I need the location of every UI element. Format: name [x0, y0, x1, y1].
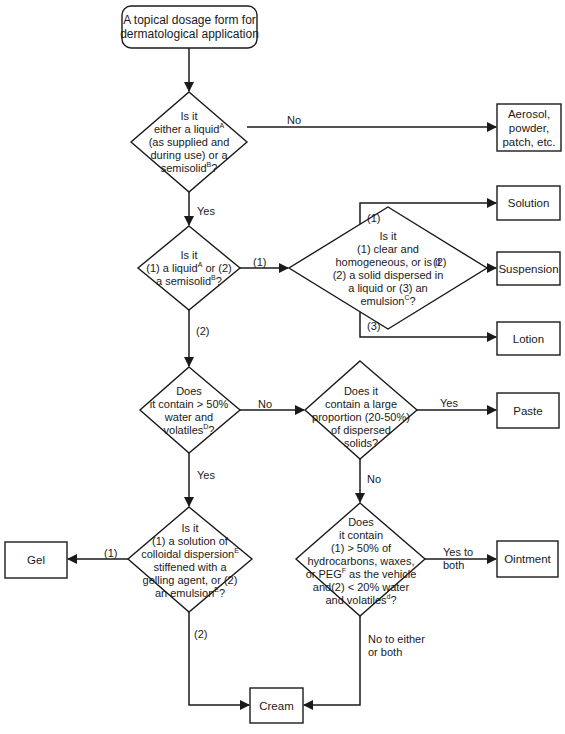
label-no-to-solids: No: [258, 398, 272, 411]
outcome-suspension: Suspension: [497, 252, 560, 285]
d3-line-5: a liquid or (3) an: [318, 282, 458, 295]
d4-line-2: it contain > 50%: [139, 398, 239, 411]
start-node: A topical dosage form for dermatological…: [122, 6, 257, 48]
outcome-paste: Paste: [497, 393, 559, 428]
d6-line-1: Is it: [129, 522, 251, 535]
d2-line-2-tail: or (2): [202, 262, 231, 274]
d1-footnote-a: A: [219, 122, 224, 129]
d2-line-3: a semisolidB?: [139, 275, 239, 288]
d7-line-5-text: or PEG: [306, 568, 342, 580]
decision-gel-or-emulsion: Is it (1) a solution of colloidal disper…: [129, 522, 251, 600]
outcome-gel: Gel: [5, 542, 67, 578]
d1-line-4: during use) or a: [139, 149, 239, 162]
d7-line-6: and(2) < 20% water: [297, 581, 425, 594]
outcome-aerosol: Aerosol, powder, patch, etc.: [497, 104, 561, 151]
d7-line-4: hydrocarbons, waxes,: [297, 555, 425, 568]
label-yes-to-both: Yes to both: [443, 546, 473, 572]
decision-dispersed-solids: Does it contain a large proportion (20-5…: [305, 385, 417, 450]
d7-line-3: (1) > 50% of: [297, 542, 425, 555]
edge-d6-2-to-cream: [189, 612, 249, 705]
d1-line-5-text: semisolid: [161, 162, 207, 174]
outcome-lotion: Lotion: [497, 322, 560, 355]
label-yes-down-water: Yes: [197, 469, 215, 482]
d4-line-4-text: volatiles: [164, 424, 204, 436]
d2-line-2-text: (1) a liquid: [146, 262, 197, 274]
d5-line-2: contain a large: [305, 398, 417, 411]
label-no-to-aerosol: No: [287, 114, 301, 127]
d2-qmark: ?: [216, 275, 222, 287]
d3-line-4: (2) a solid dispersed in: [318, 269, 458, 282]
d1-line-2: either a liquidA: [139, 123, 239, 136]
d5-line-1: Does it: [305, 385, 417, 398]
label-no-to-either-line-1: No to either: [368, 633, 425, 646]
label-yes-down-1: Yes: [197, 205, 215, 218]
label-no-down-solids: No: [367, 473, 381, 486]
d6-line-3-text: colloidal dispersion: [141, 548, 234, 560]
edge-d7-no-to-cream: [304, 616, 360, 705]
d1-line-2-text: either a liquid: [154, 123, 219, 135]
d6-line-5: gelling agent, or (2): [129, 574, 251, 587]
d7-line-5-tail: as the vehicle: [346, 568, 416, 580]
label-opt1-solution: (1): [367, 212, 380, 225]
d6-line-2: (1) a solution of: [129, 535, 251, 548]
d4-line-4: volatilesD?: [139, 424, 239, 437]
label-yes-to-paste: Yes: [440, 397, 458, 410]
d5-line-5: solids?: [305, 437, 417, 450]
d2-line-1: Is it: [139, 249, 239, 262]
label-no-to-either: No to either or both: [368, 633, 425, 659]
d7-line-2: it contain: [297, 529, 425, 542]
outcome-solution: Solution: [497, 186, 560, 220]
label-1-to-gel: (1): [104, 547, 117, 560]
d6-qmark: ?: [219, 587, 225, 599]
decision-ointment-check: Does it contain (1) > 50% of hydrocarbon…: [297, 516, 425, 607]
d4-line-3: water and: [139, 411, 239, 424]
label-opt3-lotion: (3): [367, 320, 380, 333]
d1-line-3: (as supplied and: [139, 136, 239, 149]
d2-line-2: (1) a liquidA or (2): [139, 262, 239, 275]
label-no-to-either-line-2: or both: [368, 646, 425, 659]
start-node-line-2: dermatological application: [120, 27, 259, 41]
d3-line-1: Is it: [318, 230, 458, 243]
d6-line-6: an emulsionE?: [129, 587, 251, 600]
d4-qmark: ?: [208, 424, 214, 436]
d6-line-6-text: an emulsion: [155, 587, 214, 599]
d5-line-3: proportion (20-50%): [305, 411, 417, 424]
d7-qmark: ?: [390, 594, 396, 606]
aerosol-line-1: Aerosol,: [502, 107, 555, 121]
d4-line-1: Does: [139, 385, 239, 398]
d6-line-3: colloidal dispersionE: [129, 548, 251, 561]
d3-line-6: emulsionC?: [318, 295, 458, 308]
d3-qmark: ?: [409, 295, 415, 307]
d7-line-5: or PEGF as the vehicle: [297, 568, 425, 581]
decision-liquid-type: Is it (1) clear and homogeneous, or is i…: [318, 230, 458, 308]
label-1-to-liquid-type: (1): [253, 256, 266, 269]
d3-line-6-text: emulsion: [360, 295, 404, 307]
d7-line-1: Does: [297, 516, 425, 529]
outcome-ointment: Ointment: [497, 541, 558, 577]
d6-footnote-e: E: [234, 547, 239, 554]
label-2-down: (2): [196, 325, 209, 338]
outcome-cream: Cream: [250, 688, 303, 723]
label-yes-to-both-line-1: Yes to: [443, 546, 473, 559]
d7-line-7: and volatilesd?: [297, 594, 425, 607]
start-node-line-1: A topical dosage form for: [120, 13, 259, 27]
label-opt2-suspension: (2): [433, 256, 446, 269]
d5-line-4: of dispersed: [305, 424, 417, 437]
decision-liquid-or-semisolid: Is it either a liquidA (as supplied and …: [139, 110, 239, 175]
aerosol-line-3: patch, etc.: [502, 135, 555, 149]
d6-line-4: stiffened with a: [129, 561, 251, 574]
decision-water-content: Does it contain > 50% water and volatile…: [139, 385, 239, 437]
label-2-to-cream: (2): [194, 628, 207, 641]
d2-line-3-text: a semisolid: [156, 275, 211, 287]
d1-line-5: semisolidB?: [139, 162, 239, 175]
d3-line-2: (1) clear and: [318, 243, 458, 256]
flowchart-canvas: [0, 0, 565, 734]
decision-which-one: Is it (1) a liquidA or (2) a semisolidB?: [139, 249, 239, 288]
d7-line-7-text: and volatiles: [325, 594, 386, 606]
label-yes-to-both-line-2: both: [443, 559, 473, 572]
d1-qmark: ?: [211, 162, 217, 174]
aerosol-line-2: powder,: [502, 121, 555, 135]
